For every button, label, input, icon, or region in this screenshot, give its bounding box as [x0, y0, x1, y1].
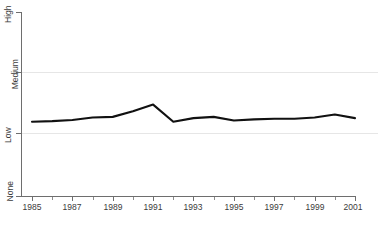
x-tick-1987 [72, 197, 73, 201]
x-tick-1991 [153, 197, 154, 201]
chart-container: High Medium Low None 1985 1987 1989 1991… [0, 0, 378, 230]
x-minor-tick-1990 [133, 197, 134, 200]
x-tick-1993 [193, 197, 194, 201]
x-minor-tick-2000 [335, 197, 336, 200]
x-minor-tick-1986 [52, 197, 53, 200]
gridline-medium [21, 72, 378, 73]
x-axis-label-1993: 1993 [184, 203, 203, 212]
y-axis-label-medium: Medium [0, 70, 16, 79]
x-minor-tick-1996 [254, 197, 255, 200]
y-tick-low [16, 133, 22, 134]
y-axis-label-high-text: High [4, 6, 13, 23]
plot-area [21, 12, 378, 197]
x-tick-2001 [355, 197, 356, 201]
y-axis-label-none: None [0, 187, 16, 196]
x-axis-label-1995: 1995 [225, 203, 244, 212]
x-axis-label-1985: 1985 [23, 203, 42, 212]
gridline-low [21, 133, 378, 134]
x-minor-tick-1994 [214, 197, 215, 200]
x-tick-1997 [274, 197, 275, 201]
y-tick-none [16, 196, 22, 197]
x-axis-label-1987: 1987 [63, 203, 82, 212]
y-axis-line [21, 12, 22, 197]
x-axis-label-1991: 1991 [144, 203, 163, 212]
x-minor-tick-1992 [173, 197, 174, 200]
x-axis-label-2001: 2001 [344, 203, 363, 212]
x-axis-label-1997: 1997 [265, 203, 284, 212]
x-tick-1999 [315, 197, 316, 201]
y-tick-high [16, 12, 22, 13]
y-axis-label-low: Low [0, 131, 16, 140]
y-axis-label-low-text: Low [4, 127, 13, 143]
x-tick-1985 [32, 197, 33, 201]
y-axis-label-high: High [0, 10, 16, 19]
x-axis-label-1989: 1989 [104, 203, 123, 212]
x-axis-label-1999: 1999 [306, 203, 325, 212]
x-tick-1989 [113, 197, 114, 201]
y-axis-label-medium-text: Medium [11, 59, 20, 89]
x-minor-tick-1998 [294, 197, 295, 200]
x-tick-1995 [234, 197, 235, 201]
y-axis-label-none-text: None [6, 181, 15, 201]
x-minor-tick-1988 [93, 197, 94, 200]
